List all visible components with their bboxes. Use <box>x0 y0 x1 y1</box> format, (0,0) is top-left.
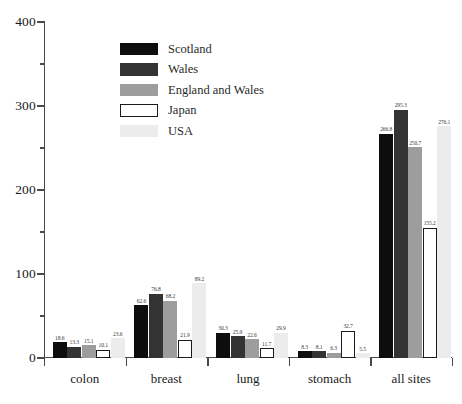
legend-label: Scotland <box>168 43 212 56</box>
x-axis-category-label-stomach: stomach <box>308 372 351 386</box>
y-axis-tick-label: 100 <box>2 267 36 281</box>
y-axis-tick-label: 300 <box>2 99 36 113</box>
bar-value-label: 295.3 <box>395 102 407 108</box>
bar-value-label: 5.5 <box>359 346 366 352</box>
legend-item-japan[interactable]: Japan <box>120 102 300 120</box>
x-axis-tick <box>370 358 371 366</box>
legend-item-england-and-wales[interactable]: England and Wales <box>120 81 300 99</box>
bar-value-label: 23.6 <box>113 331 122 337</box>
x-axis-tick <box>126 358 127 366</box>
bar-usa[interactable] <box>437 126 451 358</box>
bar-value-label: 8.1 <box>316 344 323 350</box>
bar-value-label: 25.9 <box>233 329 242 335</box>
bar-wales[interactable] <box>312 351 326 358</box>
bar-value-label: 18.6 <box>55 335 64 341</box>
y-axis-tick-label: 0 <box>2 351 36 365</box>
bar-usa[interactable] <box>192 283 206 358</box>
x-axis-category-label-colon: colon <box>70 372 99 386</box>
bar-scotland[interactable] <box>216 333 230 358</box>
x-axis-category-label-breast: breast <box>151 372 182 386</box>
bar-group-all-sites: 266.8295.3250.7155.2276.1 <box>379 22 451 358</box>
legend-label: Wales <box>168 63 198 76</box>
y-axis-tick-label: 400 <box>2 15 36 29</box>
bar-usa[interactable] <box>274 333 288 358</box>
bar-value-label: 62.6 <box>137 298 146 304</box>
x-axis-tick <box>207 358 208 366</box>
bar-value-label: 155.2 <box>424 220 436 226</box>
bar-value-label: 68.2 <box>166 293 175 299</box>
bar-value-label: 6.3 <box>330 345 337 351</box>
bar-england-and-wales[interactable] <box>163 301 177 358</box>
bar-scotland[interactable] <box>298 351 312 358</box>
legend-swatch-icon <box>120 84 158 97</box>
legend-label: Japan <box>168 104 196 117</box>
bar-japan[interactable] <box>260 348 274 358</box>
bar-value-label: 15.1 <box>84 338 93 344</box>
bar-wales[interactable] <box>231 336 245 358</box>
bar-value-label: 21.9 <box>180 332 189 338</box>
legend-item-wales[interactable]: Wales <box>120 61 300 79</box>
chart-legend: ScotlandWalesEngland and WalesJapanUSA <box>120 40 300 143</box>
bar-chart: 0100200300400 colonbreastlungstomachall … <box>0 0 462 404</box>
bar-japan[interactable] <box>423 228 437 358</box>
bar-value-label: 8.3 <box>301 344 308 350</box>
bar-value-label: 11.7 <box>262 341 271 347</box>
bar-england-and-wales[interactable] <box>245 339 259 358</box>
legend-swatch-icon <box>120 63 158 76</box>
bar-value-label: 13.3 <box>70 339 79 345</box>
bar-england-and-wales[interactable] <box>327 353 341 358</box>
bar-scotland[interactable] <box>379 134 393 358</box>
bar-value-label: 22.6 <box>247 332 256 338</box>
legend-item-scotland[interactable]: Scotland <box>120 40 300 58</box>
y-axis-tick-labels: 0100200300400 <box>0 0 36 404</box>
bar-japan[interactable] <box>178 340 192 358</box>
legend-swatch-icon <box>120 43 158 56</box>
legend-swatch-icon <box>120 104 158 117</box>
bar-value-label: 266.8 <box>380 126 392 132</box>
bar-value-label: 250.7 <box>409 140 421 146</box>
legend-label: England and Wales <box>168 84 264 97</box>
bar-england-and-wales[interactable] <box>408 147 422 358</box>
x-axis-tick <box>452 358 453 366</box>
y-axis-tick-label: 200 <box>2 183 36 197</box>
bar-scotland[interactable] <box>134 305 148 358</box>
x-axis-tick <box>289 358 290 366</box>
bar-england-and-wales[interactable] <box>82 345 96 358</box>
bar-wales[interactable] <box>394 110 408 358</box>
x-axis-category-label-lung: lung <box>236 372 259 386</box>
legend-item-usa[interactable]: USA <box>120 122 300 140</box>
bar-value-label: 29.9 <box>276 325 285 331</box>
bar-value-label: 89.2 <box>195 276 204 282</box>
bar-value-label: 76.8 <box>151 286 160 292</box>
x-axis-tick <box>44 358 45 366</box>
legend-swatch-icon <box>120 125 158 138</box>
x-axis-category-label-all-sites: all sites <box>392 372 431 386</box>
bar-wales[interactable] <box>149 294 163 359</box>
bar-scotland[interactable] <box>53 342 67 358</box>
bar-usa[interactable] <box>356 353 370 358</box>
bar-usa[interactable] <box>111 338 125 358</box>
bar-wales[interactable] <box>67 347 81 358</box>
bar-value-label: 32.7 <box>343 323 352 329</box>
legend-label: USA <box>168 125 193 138</box>
bar-group-stomach: 8.38.16.332.75.5 <box>298 22 370 358</box>
bar-value-label: 276.1 <box>438 119 450 125</box>
bar-value-label: 10.1 <box>99 342 108 348</box>
bar-value-label: 30.3 <box>218 325 227 331</box>
bar-japan[interactable] <box>96 350 110 358</box>
bar-japan[interactable] <box>341 331 355 358</box>
bar-group-colon: 18.613.315.110.123.6 <box>53 22 125 358</box>
